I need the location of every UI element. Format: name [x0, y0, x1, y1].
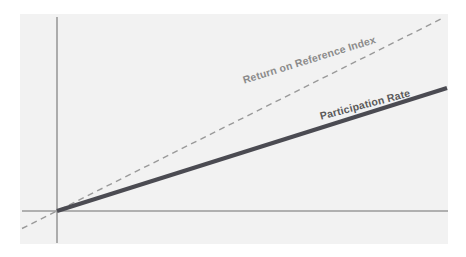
- series-line-participation-rate: [57, 88, 447, 211]
- chart-vector-layer: [0, 0, 466, 257]
- chart-screenshot: Return on Reference Index Participation …: [0, 0, 466, 257]
- series-line-reference-index: [22, 18, 443, 229]
